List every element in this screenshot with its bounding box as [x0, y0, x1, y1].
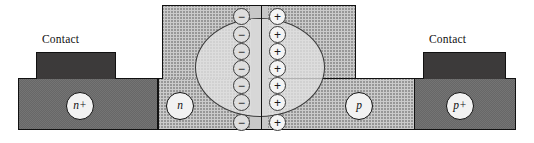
charge-positive: + [269, 26, 286, 43]
contact-right-metal [423, 52, 506, 79]
charge-positive: + [269, 77, 286, 94]
charge-negative: − [233, 77, 250, 94]
charge-positive: + [269, 60, 286, 77]
charge-positive: + [269, 94, 286, 111]
region-label-p: p [345, 92, 373, 120]
region-label-p-plus: p+ [446, 92, 474, 120]
charge-negative: − [233, 8, 250, 25]
junction-line-overlay [261, 6, 262, 129]
charge-negative: − [233, 43, 250, 60]
charge-negative: − [233, 94, 250, 111]
charge-negative: − [233, 60, 250, 77]
charge-negative: − [233, 114, 250, 131]
region-label-n: n [166, 92, 194, 120]
charge-positive: + [269, 8, 286, 25]
device-cross-section-figure: Contact − − − − − − − + + + + + + + Cont… [0, 0, 534, 143]
contact-left-label: Contact [42, 33, 79, 45]
junction-strip-overlay [251, 19, 268, 114]
contact-right-label: Contact [429, 33, 466, 45]
charge-positive: + [269, 43, 286, 60]
charge-negative: − [233, 26, 250, 43]
region-label-n-plus: n+ [66, 92, 94, 120]
contact-left-metal [36, 52, 116, 79]
charge-positive: + [269, 114, 286, 131]
